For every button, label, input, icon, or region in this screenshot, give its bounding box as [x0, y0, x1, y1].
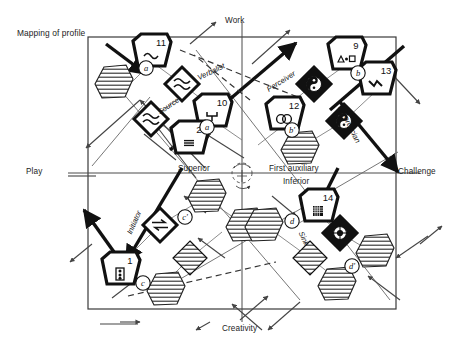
badge-label: b: [356, 68, 360, 78]
node-number: 12: [289, 100, 300, 111]
badge-label: b': [289, 125, 295, 135]
node-number: 9: [353, 40, 358, 51]
glyph-yinyang: [307, 77, 322, 92]
profile-node-12[interactable]: 12: [266, 97, 304, 129]
badge-d2[interactable]: d': [345, 259, 359, 273]
hatched-shape: [281, 131, 319, 164]
badge-label: d': [349, 261, 355, 271]
axis-label-right: Challenge: [398, 167, 436, 176]
axis-label-top: Work: [225, 16, 244, 25]
diamond-node: [297, 67, 331, 101]
badge-b2[interactable]: b': [285, 123, 299, 137]
page-title: Mapping of profile: [17, 28, 85, 38]
badge-label: a: [144, 63, 148, 73]
badge-d1[interactable]: d: [285, 214, 299, 228]
badge-c1[interactable]: c': [178, 210, 192, 224]
profile-map-canvas: 1110212913114 aabb'c'cdd': [0, 0, 455, 347]
badge-layer: aabb'c'cdd': [136, 61, 365, 290]
badge-a2[interactable]: a: [200, 120, 214, 134]
diamond-node: [293, 241, 327, 275]
axis-label-left: Play: [26, 167, 42, 176]
node-number: 10: [217, 97, 228, 108]
node-number: 14: [323, 192, 334, 203]
diamond-node: [165, 67, 199, 101]
profile-node-11[interactable]: 11: [133, 34, 171, 66]
hatched-shape: [188, 179, 226, 212]
diagram-root: 1110212913114 aabb'c'cdd' Mapping of pro…: [0, 0, 455, 347]
profile-node-9[interactable]: 9: [328, 37, 366, 69]
hatched-shape: [95, 65, 133, 98]
badge-label: c: [141, 278, 145, 288]
label-first-auxiliary: First auxiliary: [269, 164, 319, 173]
label-inferior: Inferior: [283, 177, 309, 186]
node-number: 1: [127, 255, 132, 266]
label-superior: Superior: [178, 164, 210, 173]
profile-node-1[interactable]: 1: [102, 252, 140, 284]
hatched-shape: [356, 234, 394, 267]
node-number: 11: [156, 37, 166, 48]
badge-label: c': [182, 212, 188, 222]
badge-b1[interactable]: b: [351, 66, 365, 80]
profile-node-14[interactable]: 14: [300, 189, 338, 221]
axis-label-bottom: Creativity: [222, 324, 257, 333]
badge-a1[interactable]: a: [139, 61, 153, 75]
badge-label: a: [205, 122, 209, 132]
hatched-shape: [147, 272, 185, 305]
glyph-grid: [313, 206, 323, 216]
node-number: 13: [381, 65, 392, 76]
badge-c2[interactable]: c: [136, 276, 150, 290]
